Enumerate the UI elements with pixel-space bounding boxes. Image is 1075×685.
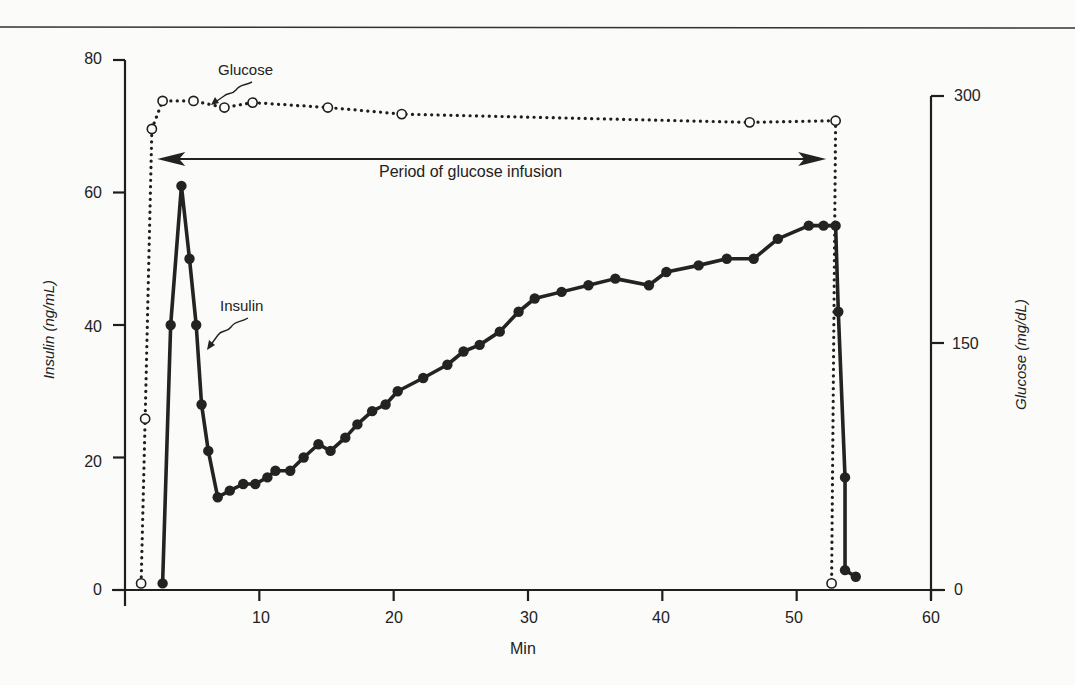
glucose-point (827, 579, 836, 588)
insulin-point (748, 254, 758, 264)
insulin-point (238, 479, 248, 489)
insulin-point (693, 260, 703, 270)
y2-tick-300: 300 (954, 87, 981, 105)
insulin-point (851, 572, 861, 582)
insulin-point (495, 326, 505, 336)
glucose-point (141, 414, 150, 423)
insulin-point (367, 406, 377, 416)
x-tick-60: 60 (911, 609, 951, 627)
insulin-point (830, 220, 840, 230)
insulin-point (661, 267, 671, 277)
insulin-point (191, 320, 201, 330)
insulin-point (313, 439, 323, 449)
insulin-point (392, 386, 402, 396)
x-tick-10: 10 (241, 609, 281, 627)
y-tick-20: 20 (62, 453, 102, 471)
y2-axis-title: Glucose (mg/dL) (1012, 255, 1029, 455)
x-tick-20: 20 (374, 609, 414, 627)
insulin-point (583, 280, 593, 290)
insulin-point (196, 399, 206, 409)
y2-tick-0: 0 (954, 581, 963, 599)
axes (112, 60, 945, 606)
insulin-point (262, 472, 272, 482)
insulin-point (722, 254, 732, 264)
x-tick-40: 40 (641, 609, 681, 627)
insulin-point (556, 287, 566, 297)
insulin-series (157, 181, 861, 589)
insulin-point (610, 273, 620, 283)
glucose-point (745, 118, 754, 127)
y2-tick-150: 150 (952, 335, 979, 353)
insulin-point (818, 220, 828, 230)
glucose-point (831, 116, 840, 125)
y-tick-60: 60 (62, 184, 102, 202)
insulin-point (458, 346, 468, 356)
top-rule (0, 27, 1075, 28)
glucose-point (323, 103, 332, 112)
glucose-point (397, 110, 406, 119)
glucose-pointer-icon (214, 82, 252, 103)
insulin-point (285, 466, 295, 476)
glucose-annotation: Glucose (218, 61, 273, 78)
chart-canvas (0, 0, 1075, 685)
glucose-point (147, 124, 156, 133)
insulin-point (530, 293, 540, 303)
x-tick-50: 50 (774, 609, 814, 627)
insulin-point (165, 320, 175, 330)
y-axis-title: Insulin (ng/mL) (40, 230, 57, 430)
y-tick-40: 40 (62, 318, 102, 336)
y-tick-80: 80 (62, 50, 102, 68)
insulin-point (418, 373, 428, 383)
infusion-period-label: Period of glucose infusion (379, 163, 562, 181)
insulin-point (225, 485, 235, 495)
insulin-point (270, 466, 280, 476)
glucose-point (220, 103, 229, 112)
y-tick-0: 0 (62, 581, 102, 599)
glucose-point (158, 96, 167, 105)
insulin-point (380, 399, 390, 409)
insulin-point (644, 280, 654, 290)
insulin-point (212, 492, 222, 502)
insulin-point (840, 565, 850, 575)
insulin-point (840, 472, 850, 482)
glucose-point (137, 579, 146, 588)
insulin-point (352, 419, 362, 429)
glucose-point (189, 96, 198, 105)
insulin-point (773, 234, 783, 244)
insulin-pointer-icon (210, 318, 248, 346)
insulin-point (513, 307, 523, 317)
insulin-point (298, 452, 308, 462)
insulin-point (157, 578, 167, 588)
insulin-point (340, 432, 350, 442)
insulin-point (325, 446, 335, 456)
insulin-point (184, 254, 194, 264)
insulin-point (833, 307, 843, 317)
insulin-annotation: Insulin (220, 297, 263, 314)
x-tick-30: 30 (509, 609, 549, 627)
insulin-point (203, 446, 213, 456)
insulin-point (442, 360, 452, 370)
glucose-point (248, 98, 257, 107)
insulin-point (804, 220, 814, 230)
insulin-point (474, 340, 484, 350)
insulin-point (250, 479, 260, 489)
insulin-point (176, 181, 186, 191)
x-axis-title: Min (510, 640, 536, 658)
